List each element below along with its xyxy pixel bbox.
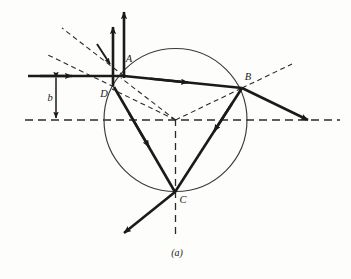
- label-D: D: [99, 88, 108, 99]
- label-A: A: [125, 53, 133, 64]
- internal-reflection-direction-arrow: [214, 104, 232, 132]
- refracted-ray-direction-arrow: [150, 79, 188, 83]
- label-C: C: [179, 194, 187, 205]
- normal-at-A-outer: [62, 28, 124, 76]
- normal-at-D-inner: [112, 89, 176, 120]
- label-impact-parameter: b: [47, 92, 52, 103]
- normal-direction-arrow-at-A: [97, 44, 110, 64]
- normal-at-D-outer: [48, 55, 114, 87]
- figure-container: A B C D b (a): [0, 0, 351, 279]
- internal-ray-direction-arrow: [129, 113, 149, 147]
- figure-caption: (a): [171, 247, 183, 259]
- ray-diagram-svg: A B C D b (a): [0, 0, 351, 279]
- exit-ray-at-C: [124, 192, 175, 233]
- label-B: B: [245, 71, 252, 82]
- exit-ray-at-B: [242, 88, 308, 120]
